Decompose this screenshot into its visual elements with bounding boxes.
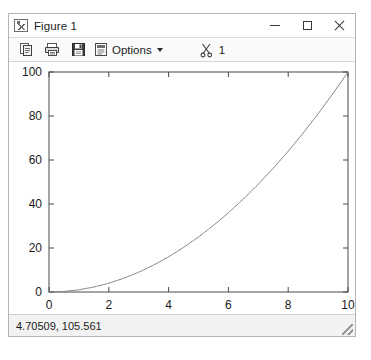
title-bar[interactable]: Figure 1	[9, 14, 355, 38]
figure-canvas[interactable]: 0246810020406080100	[9, 62, 355, 314]
svg-text:0: 0	[46, 298, 53, 312]
print-button[interactable]	[39, 39, 65, 61]
status-bar: 4.70509, 105.561	[9, 314, 355, 336]
svg-text:2: 2	[105, 298, 112, 312]
window-controls	[259, 14, 355, 37]
print-icon	[43, 41, 61, 58]
svg-text:40: 40	[29, 197, 43, 211]
save-icon	[70, 41, 87, 58]
maximize-button[interactable]	[291, 14, 323, 37]
maximize-icon	[303, 21, 312, 30]
minimize-button[interactable]	[259, 14, 291, 37]
copy-icon	[18, 41, 35, 58]
options-label: Options	[112, 44, 152, 56]
window-title: Figure 1	[34, 20, 77, 32]
cut-count: 1	[219, 44, 225, 56]
svg-text:10: 10	[341, 298, 355, 312]
svg-text:80: 80	[29, 109, 43, 123]
copy-button[interactable]	[13, 39, 39, 61]
svg-text:20: 20	[29, 241, 43, 255]
minimize-icon	[270, 25, 280, 26]
svg-text:0: 0	[35, 285, 42, 299]
chevron-down-icon	[157, 48, 163, 52]
svg-text:4: 4	[165, 298, 172, 312]
close-button[interactable]	[323, 14, 355, 37]
svg-text:100: 100	[22, 65, 42, 79]
figure-window: Figure 1	[8, 13, 356, 337]
save-button[interactable]	[65, 39, 91, 61]
resize-grip[interactable]	[342, 324, 353, 335]
scissors-icon	[199, 42, 214, 58]
cursor-coordinates: 4.70509, 105.561	[16, 320, 102, 332]
svg-text:6: 6	[225, 298, 232, 312]
options-button[interactable]: Options	[91, 39, 167, 61]
svg-text:8: 8	[285, 298, 292, 312]
options-icon	[94, 42, 108, 57]
figure-icon	[14, 19, 28, 32]
plot-area: 0246810020406080100	[9, 62, 355, 314]
cut-button[interactable]: 1	[197, 39, 227, 61]
svg-text:60: 60	[29, 153, 43, 167]
desktop-background: Figure 1	[0, 0, 371, 360]
close-icon	[334, 20, 345, 31]
toolbar: Options 1	[9, 38, 355, 62]
